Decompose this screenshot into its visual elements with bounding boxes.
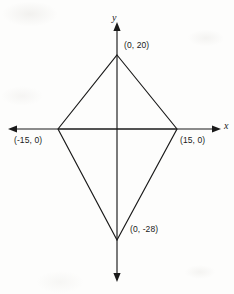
vertex-label-left: (-15, 0) [14,135,42,145]
coordinate-figure: y x (0, 20) (15, 0) (0, -28) (-15, 0) [0,0,234,294]
y-axis-top-arrowhead [113,22,120,31]
vertex-label-top: (0, 20) [124,40,149,50]
y-axis-label: y [112,12,116,23]
figure-canvas [0,0,234,294]
y-axis-bottom-arrowhead [113,273,120,282]
x-axis-left-arrowhead [8,125,17,132]
vertex-label-bottom: (0, -28) [130,224,158,234]
vertex-label-right: (15, 0) [180,135,205,145]
x-axis-label: x [224,120,228,131]
x-axis-right-arrowhead [212,125,221,132]
